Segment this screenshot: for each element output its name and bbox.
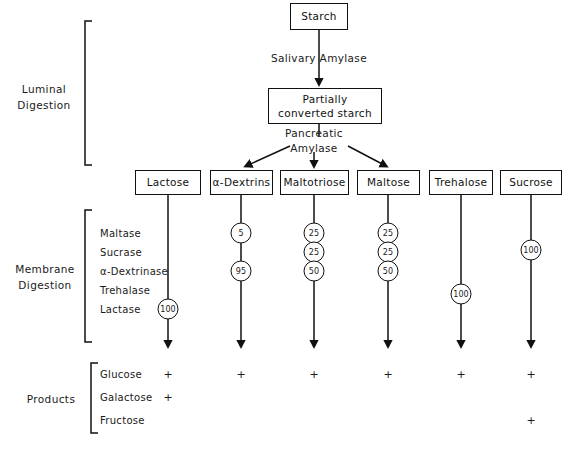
activity-circle-trehalose-trehalase-value: 100 (453, 290, 469, 299)
activity-circle-dextrins-dextrinase-value: 95 (236, 267, 246, 276)
enzyme-row-trehalase: Trehalase (100, 285, 150, 296)
enzyme-row-alpha-dextrinase-label: α-Dextrinase (100, 266, 168, 277)
product-mark-fructose-sucrose: + (526, 415, 535, 426)
product-mark-glucose-maltotriose: + (309, 369, 318, 380)
activity-circle-trehalose-trehalase[interactable]: 100 (451, 284, 472, 305)
activity-circle-dextrins-dextrinase[interactable]: 95 (231, 261, 252, 282)
activity-circle-sucrose-sucrase[interactable]: 100 (521, 240, 542, 261)
activity-circle-maltotriose-dextrinase[interactable]: 50 (304, 261, 325, 282)
product-row-fructose-label: Fructose (100, 415, 145, 426)
enzyme-row-sucrase: Sucrase (100, 247, 142, 258)
activity-circle-maltose-dextrinase[interactable]: 50 (378, 261, 399, 282)
activity-circle-lactose-lactase[interactable]: 100 (158, 299, 179, 320)
activity-circle-maltose-sucrase[interactable]: 25 (378, 242, 399, 263)
enzyme-row-trehalase-label: Trehalase (100, 285, 150, 296)
bracket-membrane (85, 210, 92, 342)
activity-circle-maltose-dextrinase-value: 50 (383, 267, 393, 276)
activity-circle-maltose-maltase[interactable]: 25 (378, 223, 399, 244)
activity-circle-maltotriose-sucrase[interactable]: 25 (304, 242, 325, 263)
activity-circle-sucrose-sucrase-value: 100 (523, 246, 539, 255)
node-starch-label: Starch (301, 9, 337, 23)
enzyme-pancreatic-amylase: Pancreatic Amylase (254, 126, 374, 156)
product-row-glucose-label: Glucose (100, 369, 142, 380)
node-partially-converted-starch[interactable]: Partially converted starch (268, 88, 382, 124)
activity-circle-dextrins-maltase[interactable]: 5 (231, 223, 252, 244)
enzyme-row-sucrase-label: Sucrase (100, 247, 142, 258)
activity-circle-maltotriose-dextrinase-value: 50 (309, 267, 319, 276)
node-substrate-sucrose[interactable]: Sucrose (500, 170, 562, 195)
node-substrate-alpha-dextrins-label: α-Dextrins (213, 175, 271, 189)
enzyme-row-alpha-dextrinase: α-Dextrinase (100, 266, 168, 277)
activity-circle-maltose-sucrase-value: 25 (383, 248, 393, 257)
node-substrate-maltose-label: Maltose (367, 175, 410, 189)
node-substrate-maltotriose[interactable]: Maltotriose (280, 170, 349, 195)
connector-layer (0, 0, 585, 449)
node-substrate-trehalose-label: Trehalose (435, 175, 487, 189)
product-mark-glucose-lactose: + (163, 369, 172, 380)
carbohydrate-digestion-diagram: Luminal Digestion Membrane Digestion Pro… (0, 0, 585, 449)
node-substrate-maltose[interactable]: Maltose (357, 170, 420, 195)
activity-circle-lactose-lactase-value: 100 (160, 305, 176, 314)
product-row-glucose: Glucose (100, 369, 142, 380)
activity-circle-maltotriose-sucrase-value: 25 (309, 248, 319, 257)
enzyme-row-lactase: Lactase (100, 304, 141, 315)
product-row-galactose: Galactose (100, 392, 152, 403)
section-title-membrane: Membrane Digestion (6, 262, 84, 294)
activity-circle-maltotriose-maltase[interactable]: 25 (304, 223, 325, 244)
product-mark-glucose-maltose: + (383, 369, 392, 380)
section-title-luminal: Luminal Digestion (8, 82, 80, 114)
enzyme-row-lactase-label: Lactase (100, 304, 141, 315)
node-substrate-lactose-label: Lactose (147, 175, 190, 189)
section-title-membrane-line1: Membrane Digestion (15, 263, 74, 291)
activity-circle-maltotriose-maltase-value: 25 (309, 229, 319, 238)
product-mark-glucose-trehalose: + (456, 369, 465, 380)
section-title-luminal-line1: Luminal Digestion (17, 83, 70, 111)
node-substrate-trehalose[interactable]: Trehalose (429, 170, 493, 195)
enzyme-salivary-amylase: Salivary Amylase (229, 51, 409, 66)
node-starch[interactable]: Starch (290, 3, 348, 30)
enzyme-row-maltase: Maltase (100, 228, 141, 239)
node-substrate-lactose[interactable]: Lactose (135, 170, 201, 195)
bracket-luminal (85, 21, 92, 165)
bracket-products (91, 363, 98, 433)
node-substrate-sucrose-label: Sucrose (509, 175, 553, 189)
activity-circle-maltose-maltase-value: 25 (383, 229, 393, 238)
node-partially-converted-starch-label: Partially converted starch (278, 92, 372, 120)
product-mark-galactose-lactose: + (163, 392, 172, 403)
section-title-products-line1: Products (27, 393, 76, 405)
product-row-fructose: Fructose (100, 415, 145, 426)
product-row-galactose-label: Galactose (100, 392, 152, 403)
section-title-products: Products (18, 392, 84, 408)
enzyme-pancreatic-amylase-label: Pancreatic Amylase (285, 127, 343, 154)
node-substrate-alpha-dextrins[interactable]: α-Dextrins (210, 170, 273, 195)
activity-circle-dextrins-maltase-value: 5 (238, 229, 243, 238)
enzyme-row-maltase-label: Maltase (100, 228, 141, 239)
product-mark-glucose-sucrose: + (526, 369, 535, 380)
enzyme-salivary-amylase-label: Salivary Amylase (271, 52, 367, 64)
product-mark-glucose-dextrins: + (236, 369, 245, 380)
node-substrate-maltotriose-label: Maltotriose (284, 175, 346, 189)
